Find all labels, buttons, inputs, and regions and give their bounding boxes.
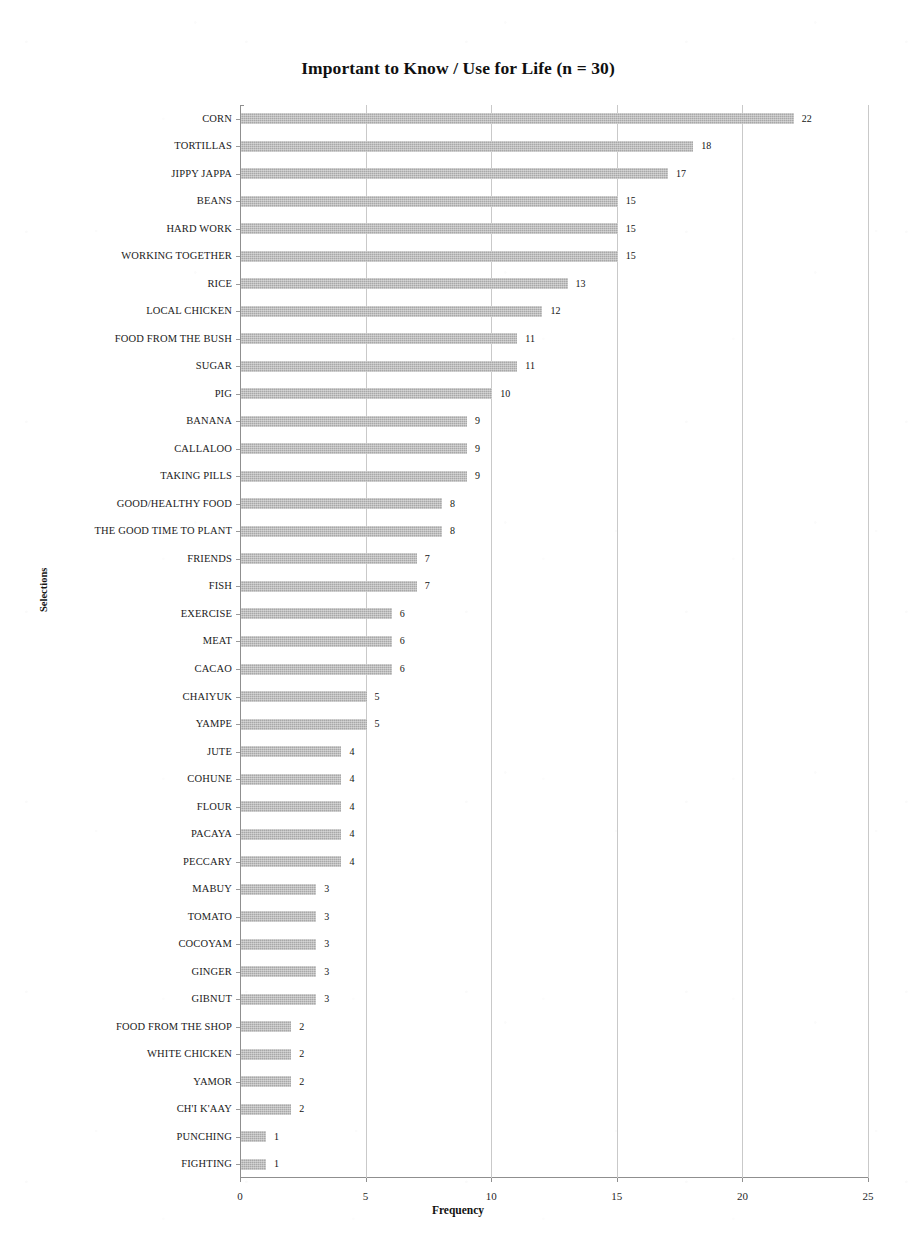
bar (241, 278, 568, 289)
bar-row: FLOUR4 (240, 793, 868, 821)
bar (241, 856, 341, 867)
y-tick-mark (236, 1109, 240, 1110)
category-label: THE GOOD TIME TO PLANT (95, 526, 232, 537)
bar (241, 911, 316, 922)
bar-value-label: 3 (324, 884, 329, 894)
bar (241, 746, 341, 757)
bar (241, 223, 618, 234)
y-tick-mark (236, 1082, 240, 1083)
y-tick-mark (236, 586, 240, 587)
y-tick-mark (236, 1054, 240, 1055)
x-tick-mark-25 (868, 1178, 869, 1182)
y-tick-mark (236, 366, 240, 367)
bar (241, 141, 693, 152)
bar-row: RICE13 (240, 270, 868, 298)
chart-title: Important to Know / Use for Life (n = 30… (0, 58, 916, 79)
bar (241, 608, 392, 619)
bar (241, 333, 517, 344)
bar (241, 113, 794, 124)
y-tick-mark (236, 531, 240, 532)
bar (241, 966, 316, 977)
bar (241, 774, 341, 785)
bar-row: COCOYAM3 (240, 930, 868, 958)
bar-row: EXERCISE6 (240, 600, 868, 628)
bar (241, 691, 367, 702)
category-label: CORN (202, 114, 232, 125)
y-tick-mark (236, 339, 240, 340)
category-label: CH'I K'AAY (177, 1104, 232, 1115)
bar-row: FOOD FROM THE BUSH11 (240, 325, 868, 353)
bar-value-label: 10 (500, 389, 510, 399)
bar (241, 636, 392, 647)
bar (241, 1049, 291, 1060)
y-tick-mark (236, 229, 240, 230)
bar (241, 306, 542, 317)
bar-row: PIG10 (240, 380, 868, 408)
bar-row: CHAIYUK5 (240, 683, 868, 711)
plot-area: 0510152025 CORN22TORTILLAS18JIPPY JAPPA1… (240, 105, 868, 1178)
bar-row: JIPPY JAPPA17 (240, 160, 868, 188)
y-tick-mark (236, 614, 240, 615)
bar-value-label: 4 (349, 829, 354, 839)
y-tick-mark (236, 889, 240, 890)
x-tick-mark-20 (742, 1178, 743, 1182)
category-label: FOOD FROM THE SHOP (116, 1022, 232, 1033)
bar (241, 553, 417, 564)
y-tick-mark (236, 284, 240, 285)
category-label: EXERCISE (181, 609, 232, 620)
y-tick-mark (236, 504, 240, 505)
bar (241, 388, 492, 399)
category-label: WORKING TOGETHER (121, 251, 232, 262)
bar-value-label: 11 (525, 334, 535, 344)
bar (241, 196, 618, 207)
bar-row: CH'I K'AAY2 (240, 1095, 868, 1123)
category-label: FRIENDS (187, 554, 232, 565)
bar (241, 471, 467, 482)
bar-value-label: 6 (400, 609, 405, 619)
y-tick-mark (236, 559, 240, 560)
bar-value-label: 15 (626, 251, 636, 261)
bar-row: PUNCHING1 (240, 1123, 868, 1151)
category-label: CALLALOO (174, 444, 232, 455)
bar-value-label: 3 (324, 939, 329, 949)
bar-value-label: 7 (425, 554, 430, 564)
bar (241, 416, 467, 427)
bar-row: GIBNUT3 (240, 985, 868, 1013)
bar-row: JUTE4 (240, 738, 868, 766)
bar-value-label: 2 (299, 1077, 304, 1087)
bar (241, 1021, 291, 1032)
bar (241, 443, 467, 454)
bar-value-label: 4 (349, 774, 354, 784)
y-tick-mark (236, 476, 240, 477)
category-label: FOOD FROM THE BUSH (115, 334, 232, 345)
category-label: YAMOR (193, 1077, 232, 1088)
x-tick-label: 0 (237, 1190, 243, 1202)
category-label: SUGAR (196, 361, 232, 372)
bar (241, 939, 316, 950)
x-tick-label: 25 (863, 1190, 874, 1202)
bar-value-label: 1 (274, 1159, 279, 1169)
bar-row: COHUNE4 (240, 765, 868, 793)
bar-row: PECCARY4 (240, 848, 868, 876)
x-tick-label: 15 (611, 1190, 622, 1202)
bar-value-label: 3 (324, 967, 329, 977)
category-label: PIG (215, 389, 232, 400)
bar-row: FIGHTING1 (240, 1150, 868, 1178)
bar (241, 168, 668, 179)
bar-row: BEANS15 (240, 188, 868, 216)
bar-row: MABUY3 (240, 875, 868, 903)
bar (241, 884, 316, 895)
category-label: GINGER (191, 967, 232, 978)
bar-row: THE GOOD TIME TO PLANT8 (240, 518, 868, 546)
bar-row: SUGAR11 (240, 353, 868, 381)
bar-value-label: 15 (626, 196, 636, 206)
bar-row: FISH7 (240, 573, 868, 601)
bar-value-label: 2 (299, 1022, 304, 1032)
bar-value-label: 17 (676, 169, 686, 179)
bar-value-label: 13 (576, 279, 586, 289)
bar-row: GOOD/HEALTHY FOOD8 (240, 490, 868, 518)
y-tick-mark (236, 752, 240, 753)
bar-row: CORN22 (240, 105, 868, 133)
category-label: TORTILLAS (174, 141, 232, 152)
category-label: FIGHTING (181, 1159, 232, 1170)
